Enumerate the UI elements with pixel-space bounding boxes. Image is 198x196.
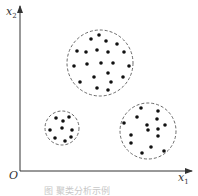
data-point — [70, 128, 74, 132]
data-point — [106, 71, 110, 75]
data-point — [139, 106, 143, 110]
data-point — [54, 116, 58, 120]
data-point — [121, 75, 125, 79]
x2-axis-label: x2 — [6, 5, 17, 20]
data-point — [135, 115, 139, 119]
data-point — [106, 88, 110, 92]
cluster-right — [120, 103, 176, 159]
data-point — [92, 75, 96, 79]
data-point — [140, 151, 144, 155]
x1-axis-label: x1 — [178, 171, 189, 186]
data-point — [149, 145, 153, 149]
origin-label: O — [9, 169, 18, 182]
data-point — [84, 50, 88, 54]
data-point — [95, 86, 99, 90]
data-point — [115, 42, 119, 46]
data-point — [69, 135, 73, 139]
data-point — [75, 49, 79, 53]
data-point — [106, 50, 110, 54]
data-point — [156, 127, 160, 131]
data-point — [162, 149, 166, 153]
data-point — [89, 37, 93, 41]
cluster-diagram: O x1 x2 图 聚类分析示例 — [0, 0, 198, 196]
data-point — [85, 62, 89, 66]
data-point — [78, 80, 82, 84]
data-point — [145, 123, 149, 127]
data-point — [127, 64, 131, 68]
figure-caption: 图 聚类分析示例 — [44, 185, 110, 196]
data-point — [111, 61, 115, 65]
cluster-small — [45, 111, 79, 145]
data-point — [156, 109, 160, 113]
data-point — [60, 126, 64, 130]
data-point — [122, 50, 126, 54]
data-point — [129, 133, 133, 137]
data-point — [146, 128, 150, 132]
data-point — [48, 128, 52, 132]
cluster-large — [67, 30, 133, 96]
data-point — [72, 64, 76, 68]
data-point — [109, 80, 113, 84]
data-point — [99, 61, 103, 65]
data-point — [67, 115, 71, 119]
data-point — [63, 139, 67, 143]
clusters-group — [45, 30, 176, 159]
data-point — [155, 117, 159, 121]
data-point — [129, 141, 133, 145]
data-point — [53, 136, 57, 140]
data-point — [104, 39, 108, 43]
data-point — [122, 121, 126, 125]
data-point — [156, 134, 160, 138]
data-point — [61, 119, 65, 123]
data-point — [97, 33, 101, 37]
data-point — [95, 48, 99, 52]
data-point — [163, 123, 167, 127]
